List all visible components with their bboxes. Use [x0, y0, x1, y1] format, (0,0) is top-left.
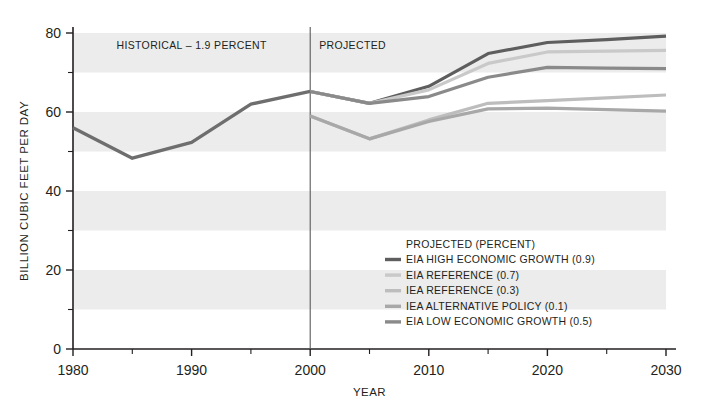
projected-period-label: PROJECTED — [319, 39, 386, 51]
legend-item-label: EIA HIGH ECONOMIC GROWTH (0.9) — [406, 253, 595, 265]
plot-bands — [73, 33, 666, 310]
background-band — [73, 112, 666, 152]
background-band — [73, 191, 666, 231]
annotation-labels: HISTORICAL – 1.9 PERCENTPROJECTED — [116, 39, 386, 51]
background-band — [73, 270, 666, 310]
legend-title: PROJECTED (PERCENT) — [406, 238, 535, 250]
chart-container: 020406080198019902000201020202030 HISTOR… — [0, 0, 701, 419]
x-tick-label: 1980 — [57, 362, 88, 378]
line-chart: 020406080198019902000201020202030 HISTOR… — [0, 0, 701, 419]
y-tick-label: 60 — [45, 104, 61, 120]
x-tick-label: 2020 — [532, 362, 563, 378]
y-tick-label: 40 — [45, 183, 61, 199]
x-tick-label: 1990 — [176, 362, 207, 378]
x-tick-label: 2030 — [650, 362, 681, 378]
legend-item-label: IEA REFERENCE (0.3) — [406, 284, 519, 296]
y-tick-label: 20 — [45, 262, 61, 278]
y-tick-label: 0 — [53, 341, 61, 357]
y-axis-title: BILLION CUBIC FEET PER DAY — [18, 101, 30, 281]
y-tick-label: 80 — [45, 25, 61, 41]
x-axis-title: YEAR — [353, 386, 386, 398]
legend-item-label: EIA REFERENCE (0.7) — [406, 269, 519, 281]
legend-item-label: IEA ALTERNATIVE POLICY (0.1) — [406, 300, 568, 312]
historical-period-label: HISTORICAL – 1.9 PERCENT — [116, 39, 266, 51]
x-tick-label: 2000 — [295, 362, 326, 378]
x-tick-label: 2010 — [413, 362, 444, 378]
legend-item-label: EIA LOW ECONOMIC GROWTH (0.5) — [406, 315, 592, 327]
